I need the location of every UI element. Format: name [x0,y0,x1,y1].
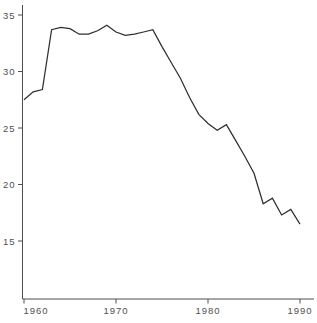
x-tick-label: 1990 [287,305,312,316]
x-tick-label: 1960 [24,305,49,316]
axis-tick-labels: 35302520151960197019801990 [3,10,313,317]
y-tick-label: 30 [3,66,16,77]
x-tick-label: 1970 [103,305,128,316]
line-chart-canvas: 35302520151960197019801990 [0,0,317,323]
line-chart-figure: 35302520151960197019801990 [0,0,317,323]
axis-ticks [18,15,300,304]
axes [23,5,315,299]
y-tick-label: 15 [3,236,16,247]
axis-lines [23,5,315,299]
y-tick-label: 25 [3,123,16,134]
data-series [24,25,300,224]
y-tick-label: 20 [3,179,16,190]
data-line [24,25,300,224]
x-tick-label: 1980 [195,305,220,316]
y-tick-label: 35 [3,10,16,21]
